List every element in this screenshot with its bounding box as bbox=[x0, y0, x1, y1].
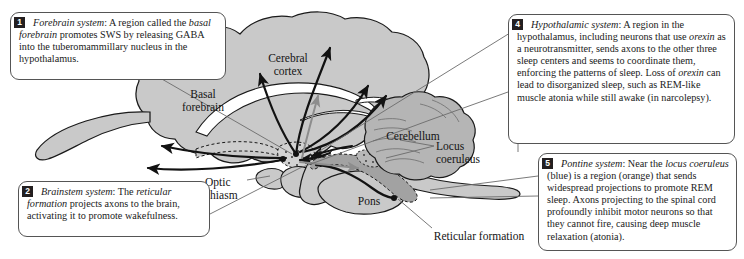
label-basal-forebrain: Basal forebrain bbox=[163, 88, 243, 114]
callout-box-pontine-system: Pontine system: Near the locus coeruleus… bbox=[538, 153, 737, 251]
callout-1-text: Forebrain system: A region called the ba… bbox=[19, 17, 219, 65]
callout-box-hypothalamic-system: Hypothalamic system: A region in the hyp… bbox=[508, 14, 735, 144]
label-reticular-formation: Reticular formation bbox=[414, 230, 544, 243]
callout-2-badge: 2 bbox=[22, 186, 33, 197]
callout-4-text: Hypothalamic system: A region in the hyp… bbox=[517, 19, 728, 104]
label-optic-chiasm: Optic chiasm bbox=[205, 176, 261, 202]
callout-1-badge: 1 bbox=[14, 17, 25, 28]
label-cerebral-cortex: Cerebral cortex bbox=[243, 52, 333, 78]
label-locus-coeruleus: Locus coeruleus bbox=[436, 140, 514, 166]
label-pons: Pons bbox=[348, 195, 390, 208]
callout-4-badge: 4 bbox=[512, 19, 523, 30]
callout-5-badge: 5 bbox=[542, 158, 553, 169]
sleep-centers-diagram: Forebrain system: A region called the ba… bbox=[0, 0, 744, 259]
basal-forebrain-lobe bbox=[36, 112, 150, 160]
callout-box-forebrain-system: Forebrain system: A region called the ba… bbox=[10, 12, 226, 80]
callout-2-text: Brainstem system: The reticular formatio… bbox=[27, 186, 203, 222]
callout-box-brainstem-system: Brainstem system: The reticular formatio… bbox=[18, 181, 210, 237]
callout-5-text: Pontine system: Near the locus coeruleus… bbox=[547, 158, 730, 243]
